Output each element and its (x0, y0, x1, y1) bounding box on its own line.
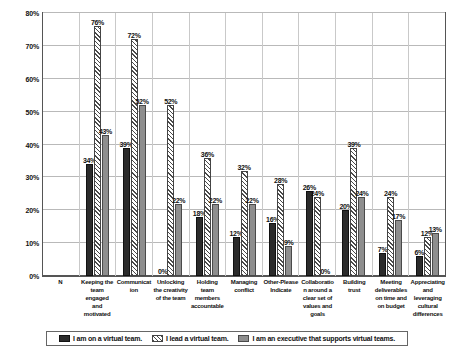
legend-swatch-icon-series-0 (59, 335, 70, 342)
bar-slot: 9% (285, 13, 292, 276)
bar-chart: 0%10%20%30%40%50%60%70%80% 34%76%43%39%7… (0, 0, 454, 352)
x-axis-category-label: Communication (115, 278, 152, 322)
category-group: 18%36%22% (189, 13, 226, 276)
bar-slot: 22% (212, 13, 219, 276)
bar-series-0: 12% (233, 237, 240, 276)
bar-slot: 32% (241, 13, 248, 276)
category-group: 16%28%9% (262, 13, 299, 276)
bar-series-1: 52% (167, 105, 174, 276)
bar-value-label: 52% (136, 98, 149, 105)
bar-slot: 12% (424, 13, 431, 276)
bar-series-2: 22% (175, 204, 182, 276)
bar-series-0: 26% (306, 191, 313, 276)
bar-series-0: 39% (123, 148, 130, 276)
bar-value-label: 13% (429, 226, 442, 233)
bar-series-2: 17% (395, 220, 402, 276)
category-group: 6%12%13% (408, 13, 445, 276)
x-axis-category-label: Unlocking the creativity of the team (152, 278, 189, 322)
bar-slot: 7% (379, 13, 386, 276)
x-axis-labels: NKeeping the team engaged and motivatedC… (42, 278, 446, 322)
bar-series-0: 16% (269, 223, 276, 276)
bar-series-2: 22% (212, 204, 219, 276)
bar-series-1: 39% (350, 148, 357, 276)
y-axis-tick-label: 50% (26, 108, 39, 115)
x-axis-category-label: Collaboration around a clear set of valu… (299, 278, 336, 322)
bar-series-0: 6% (416, 256, 423, 276)
bar-series-2: 22% (249, 204, 256, 276)
category-group: 39%72%52% (115, 13, 152, 276)
bar-slot: 26% (306, 13, 313, 276)
y-axis-tick-label: 30% (26, 174, 39, 181)
bar-series-2: 43% (102, 135, 109, 276)
bar-slot: 16% (269, 13, 276, 276)
bar-slot: 18% (196, 13, 203, 276)
bar-series-2: 24% (358, 197, 365, 276)
bar-slot: 13% (432, 13, 439, 276)
bar-slot: 24% (387, 13, 394, 276)
bar-slot: 34% (86, 13, 93, 276)
bar-value-label: 22% (172, 197, 185, 204)
x-axis-category-label: Managing conflict (226, 278, 263, 322)
legend-label-series-0: I am on a virtual team. (73, 335, 142, 342)
bar-slot: 17% (395, 13, 402, 276)
bar-slot: 24% (314, 13, 321, 276)
x-axis-category-label: Appreciating and leveraging cultural dif… (409, 278, 446, 322)
chart-legend: I am on a virtual team. I lead a virtual… (46, 331, 408, 346)
category-bands: 34%76%43%39%72%52%0%52%22%18%36%22%12%32… (43, 13, 445, 276)
legend-item-executive-supports: I am an executive that supports virtual … (238, 335, 395, 342)
legend-item-on-virtual-team: I am on a virtual team. (59, 335, 142, 342)
bar-slot: 76% (94, 13, 101, 276)
legend-item-lead-virtual-team: I lead a virtual team. (152, 335, 229, 342)
category-group: 34%76%43% (79, 13, 116, 276)
category-group: 20%39%24% (335, 13, 372, 276)
bar-value-label: 43% (99, 128, 112, 135)
bar-value-label: 17% (392, 213, 405, 220)
bar-value-label: 24% (355, 190, 368, 197)
x-axis-category-label: Holding team members accountable (189, 278, 226, 322)
bar-value-label: 22% (209, 197, 222, 204)
bar-slot: 39% (350, 13, 357, 276)
bar-series-0: 34% (86, 164, 93, 276)
x-axis-category-label: Building trust (336, 278, 373, 322)
y-axis-tick-label: 80% (26, 10, 39, 17)
category-group: 12%32%22% (225, 13, 262, 276)
bar-series-1: 28% (277, 184, 284, 276)
x-axis-category-label: Meeting deliverables on time and on budg… (373, 278, 410, 322)
bar-series-1: 32% (241, 171, 248, 276)
category-group: 7%24%17% (372, 13, 409, 276)
bar-series-2: 52% (139, 105, 146, 276)
x-axis-category-label: Other-Please Indicate (262, 278, 299, 322)
bar-value-label: 7% (378, 246, 388, 253)
bar-value-label: 6% (414, 249, 424, 256)
bar-slot: 43% (102, 13, 109, 276)
bar-value-label: 9% (284, 239, 294, 246)
x-axis-category-label: Keeping the team engaged and motivated (79, 278, 116, 322)
bar-slot: 52% (167, 13, 174, 276)
y-axis-tick-label: 70% (26, 42, 39, 49)
category-group: 0%52%22% (152, 13, 189, 276)
bar-series-1: 24% (314, 197, 321, 276)
bar-series-1: 72% (131, 39, 138, 276)
bar-value-label: 22% (245, 197, 258, 204)
bar-series-2: 13% (432, 233, 439, 276)
y-axis-tick-label: 10% (26, 240, 39, 247)
y-axis-tick-label: 60% (26, 75, 39, 82)
bar-slot: 24% (358, 13, 365, 276)
bar-series-0: 7% (379, 253, 386, 276)
legend-label-series-2: I am an executive that supports virtual … (252, 335, 395, 342)
bar-series-2: 9% (285, 246, 292, 276)
legend-swatch-icon-series-1 (152, 335, 163, 342)
bar-slot: 0% (159, 13, 166, 276)
bar-slot: 0% (322, 13, 329, 276)
y-axis-tick-label: 0% (29, 273, 39, 280)
bar-value-label: 0% (158, 268, 168, 275)
x-axis-category-label: N (42, 278, 79, 322)
y-axis-tick-label: 40% (26, 141, 39, 148)
legend-label-series-1: I lead a virtual team. (166, 335, 229, 342)
plot-area: 0%10%20%30%40%50%60%70%80% 34%76%43%39%7… (42, 12, 446, 277)
category-group: 26%24%0% (298, 13, 335, 276)
category-group (43, 13, 79, 276)
bar-slot: 22% (249, 13, 256, 276)
bar-series-1: 12% (424, 237, 431, 276)
bar-series-1: 76% (94, 26, 101, 276)
